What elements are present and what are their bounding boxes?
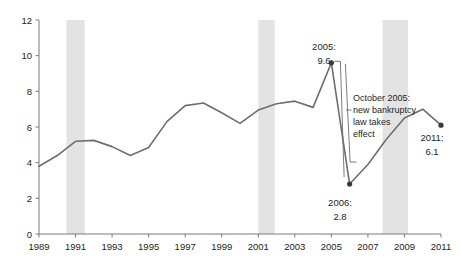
recession-band-3: [383, 20, 409, 234]
recession-band-2: [258, 20, 274, 234]
y-tick-label: 8: [27, 86, 32, 97]
x-tick-label: 2007: [357, 241, 378, 252]
y-tick-label: 10: [21, 50, 32, 61]
x-tick-label: 1995: [138, 241, 159, 252]
line-chart: 0 2 4 6 8 10 12 1989 1991 1993 1995 1997…: [0, 0, 460, 276]
annotation-2005-line2: 9.6: [317, 55, 330, 66]
x-tick-label: 2005: [321, 241, 342, 252]
annotation-law-line1: October 2005:: [353, 93, 410, 103]
y-tick-label: 12: [21, 15, 32, 26]
axes-group: [36, 20, 442, 238]
y-tick-label: 6: [27, 122, 32, 133]
y-axis-tick-labels: 0 2 4 6 8 10 12: [21, 15, 32, 240]
annotation-2005-line1: 2005:: [312, 41, 336, 52]
recession-bands-group: [66, 20, 408, 234]
x-tick-label: 2009: [394, 241, 415, 252]
annotation-law-line2: new bankruptcy: [353, 105, 417, 115]
chart-container: 0 2 4 6 8 10 12 1989 1991 1993 1995 1997…: [0, 0, 460, 276]
x-tick-label: 2003: [284, 241, 305, 252]
annotation-2006-line2: 2.8: [333, 211, 346, 222]
x-tick-label: 1991: [65, 241, 86, 252]
y-tick-label: 0: [27, 229, 32, 240]
x-tick-label: 1999: [211, 241, 232, 252]
x-tick-label: 1989: [28, 241, 49, 252]
annotation-law-line4: effect: [353, 129, 375, 139]
x-tick-label: 1997: [175, 241, 196, 252]
x-tick-label: 2001: [248, 241, 269, 252]
y-tick-label: 4: [27, 157, 32, 168]
annotation-2011-line1: 2011:: [420, 132, 443, 143]
data-point-marker-2011: [438, 123, 443, 128]
x-tick-label: 1993: [102, 241, 123, 252]
data-point-marker-2006: [347, 181, 352, 186]
annotation-2006: 2006: 2.8: [328, 197, 352, 222]
x-tick-label: 2011: [431, 241, 451, 252]
annotation-law-line3: law takes: [353, 117, 391, 127]
recession-band-1: [66, 20, 84, 234]
annotation-2011-line2: 6.1: [425, 146, 438, 157]
annotation-leader-bracket: [334, 61, 344, 177]
x-axis-ticks: [39, 234, 441, 238]
x-axis-tick-labels: 1989 1991 1993 1995 1997 1999 2001 2003 …: [28, 241, 451, 252]
y-axis-ticks: [36, 20, 40, 234]
annotation-2006-line1: 2006:: [328, 197, 352, 208]
annotation-2011: 2011: 6.1: [420, 132, 443, 157]
y-tick-label: 2: [27, 193, 32, 204]
